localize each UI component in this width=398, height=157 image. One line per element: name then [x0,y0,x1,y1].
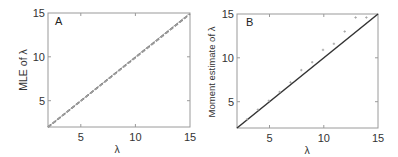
panel-a-ytick-5: 5 [39,95,45,107]
panel-a-xtick-10: 10 [129,131,141,143]
panel-a-ylabel: MLE of λ [17,49,29,91]
panel-b-ytick-5: 5 [228,96,234,108]
panel-b-ytick-15: 15 [222,8,234,20]
panel-b-xtick-15: 15 [372,132,384,144]
figure: 5 10 15 5 10 15 A λ MLE of λ [0,0,398,157]
panel-a-xtick-5: 5 [78,131,84,143]
panel-b-xtick-10: 10 [318,132,330,144]
panel-b: 5 10 15 5 10 15 B λ Moment estimate of λ [206,8,384,156]
panel-a-ytick-15: 15 [33,7,45,19]
panel-a-label: A [55,15,63,27]
panel-a-ytick-10: 10 [33,51,45,63]
panel-a: 5 10 15 5 10 15 A λ MLE of λ [17,7,196,155]
panel-b-ytick-10: 10 [222,52,234,64]
panel-b-label: B [246,16,253,28]
panel-a-xlabel: λ [114,143,120,155]
panel-b-ylabel: Moment estimate of λ [206,26,217,117]
panel-b-xlabel: λ [304,144,310,156]
panel-b-xtick-5: 5 [266,132,272,144]
panel-a-xtick-15: 15 [184,131,196,143]
